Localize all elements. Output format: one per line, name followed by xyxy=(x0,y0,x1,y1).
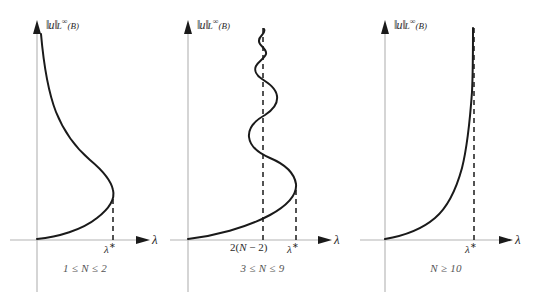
panel-2: ‖u‖L∞(B) 2(N − 2) λ∗ λ 3 ≤ N ≤ 9 xyxy=(170,0,355,296)
panel-3-caption: N ≥ 10 xyxy=(355,262,537,274)
panel-1: ‖u‖L∞(B) λ∗ λ 1 ≤ N ≤ 2 xyxy=(0,0,170,296)
panel-2-tick-asymptote: 2(N − 2) xyxy=(230,241,267,253)
panel-1-y-axis-label: ‖u‖L∞(B) xyxy=(46,17,79,33)
panel-1-caption: 1 ≤ N ≤ 2 xyxy=(0,262,170,274)
panel-2-y-axis-label: ‖u‖L∞(B) xyxy=(197,17,230,33)
panel-1-curve xyxy=(37,34,113,239)
panel-1-y-axis-arrowhead xyxy=(33,20,41,34)
panel-2-x-axis-label: λ xyxy=(334,232,340,248)
panel-1-plot xyxy=(0,0,170,296)
panel-3-x-axis-label: λ xyxy=(515,232,521,248)
panel-3-x-axis-arrowhead xyxy=(499,236,513,244)
panel-1-x-axis-arrowhead xyxy=(136,236,150,244)
panel-2-curve xyxy=(188,29,296,239)
panel-1-x-axis-label: λ xyxy=(152,232,158,248)
panel-1-tick-lambda-star: λ∗ xyxy=(104,241,116,255)
panel-2-tick-lambda-star: λ∗ xyxy=(287,241,299,255)
panel-3-y-axis-label: ‖u‖L∞(B) xyxy=(394,17,427,33)
panel-2-x-axis-arrowhead xyxy=(318,236,332,244)
panel-3-plot xyxy=(355,0,537,296)
panel-3-tick-lambda-star: λ∗ xyxy=(465,241,477,255)
panel-2-caption: 3 ≤ N ≤ 9 xyxy=(170,262,355,274)
panel-2-y-axis-arrowhead xyxy=(184,20,192,34)
panel-3-y-axis-arrowhead xyxy=(381,20,389,34)
panel-3-curve xyxy=(385,28,473,239)
panel-3: ‖u‖L∞(B) λ∗ λ N ≥ 10 xyxy=(355,0,537,296)
bifurcation-figure: ‖u‖L∞(B) λ∗ λ 1 ≤ N ≤ 2 ‖u‖L∞(B) 2(N − 2 xyxy=(0,0,537,296)
